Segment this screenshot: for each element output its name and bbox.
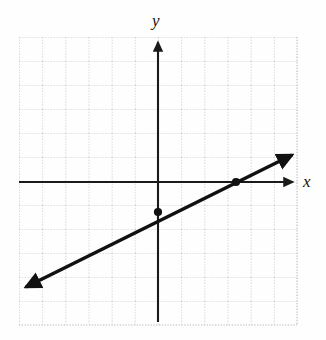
coordinate-plane bbox=[0, 0, 326, 340]
graph-figure: y x bbox=[0, 0, 326, 340]
y-intercept-point bbox=[154, 208, 162, 216]
x-axis-label: x bbox=[303, 173, 311, 190]
y-axis-label: y bbox=[152, 12, 160, 29]
x-intercept-point bbox=[232, 178, 240, 186]
